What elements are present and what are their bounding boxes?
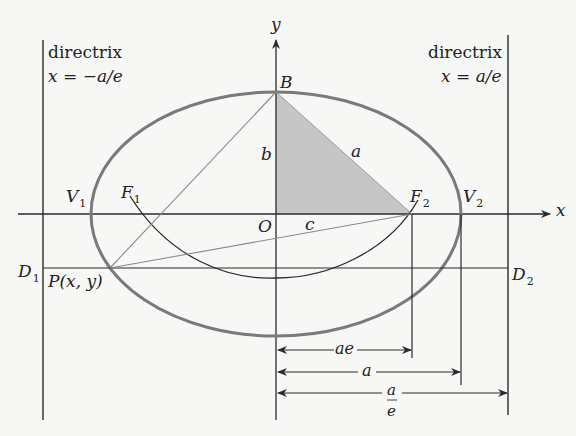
ellipse-diagram: directrix x = −a/e directrix x = a/e y x… <box>0 0 576 436</box>
segment-b-label: b <box>261 146 272 163</box>
segment-a-label: a <box>351 143 361 160</box>
directrix-right-equation: x = a/e <box>441 68 502 85</box>
dim-a-over-e-denominator: e <box>387 404 396 419</box>
origin-label: O <box>258 218 272 235</box>
point-f1-label: F1 <box>121 184 141 201</box>
d1-sub: 1 <box>33 272 40 285</box>
v2-main: V <box>463 186 475 206</box>
v1-main: V <box>66 186 78 206</box>
f1-main: F <box>121 182 133 202</box>
x-axis-label: x <box>556 202 566 219</box>
f2-main: F <box>410 186 422 206</box>
directrix-right-label: directrix <box>428 44 502 61</box>
dim-a-over-e-numerator: a <box>387 383 396 398</box>
point-d2-label: D2 <box>512 266 534 283</box>
point-v1-label: V1 <box>66 188 86 205</box>
point-b-label: B <box>280 74 293 91</box>
dim-a-label: a <box>362 363 372 379</box>
point-p-label: P(x, y) <box>48 273 103 290</box>
d2-sub: 2 <box>527 275 534 288</box>
line-b-p <box>110 92 276 268</box>
v1-sub: 1 <box>79 197 86 210</box>
segment-c-label: c <box>305 216 315 233</box>
f1-sub: 1 <box>134 193 141 206</box>
dim-ae-label: ae <box>335 341 354 357</box>
d2-main: D <box>512 264 526 284</box>
v2-sub: 2 <box>476 197 483 210</box>
f2-sub: 2 <box>423 197 430 210</box>
directrix-left-label: directrix <box>48 44 122 61</box>
point-d1-label: D1 <box>18 263 40 280</box>
directrix-left-equation: x = −a/e <box>48 68 123 85</box>
d1-main: D <box>18 261 32 281</box>
point-v2-label: V2 <box>463 188 483 205</box>
y-axis-label: y <box>271 16 281 33</box>
point-f2-label: F2 <box>410 188 430 205</box>
